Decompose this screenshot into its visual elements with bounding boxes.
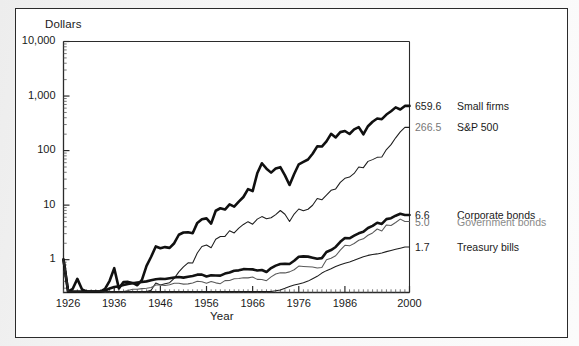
- x-tick-label: 1966: [231, 297, 275, 309]
- data-series-lines: [64, 106, 410, 292]
- y-axis-ticks: [64, 42, 70, 289]
- series-end-value: 659.6: [415, 100, 441, 112]
- x-tick-label: 1956: [185, 297, 229, 309]
- x-axis-title: Year: [210, 310, 234, 322]
- series-end-value: 1.7: [415, 241, 430, 253]
- x-tick-label: 1926: [46, 297, 90, 309]
- x-tick-label: 1946: [138, 297, 182, 309]
- series-end-name: Government bonds: [457, 216, 546, 228]
- series-end-value: 266.5: [415, 121, 441, 133]
- y-axis-title: Dollars: [45, 18, 82, 30]
- y-tick-label: 10,000: [12, 34, 56, 46]
- x-tick-label: 1976: [277, 297, 321, 309]
- y-tick-label: 1: [12, 252, 56, 264]
- axis-lines: [64, 42, 410, 293]
- series-end-name: Treasury bills: [457, 241, 519, 253]
- y-tick-label: 1,000: [12, 89, 56, 101]
- x-tick-label: 1986: [323, 297, 367, 309]
- series-end-name: S&P 500: [457, 121, 498, 133]
- x-tick-label: 2000: [388, 297, 432, 309]
- y-tick-label: 10: [12, 198, 56, 210]
- series-end-value: 5.0: [415, 216, 430, 228]
- figure-canvas: Dollars Year 1101001,00010,000 192619361…: [0, 0, 579, 346]
- x-tick-label: 1936: [92, 297, 136, 309]
- y-tick-label: 100: [12, 143, 56, 155]
- series-end-name: Small firms: [457, 100, 509, 112]
- chart-plot-svg: [0, 0, 579, 346]
